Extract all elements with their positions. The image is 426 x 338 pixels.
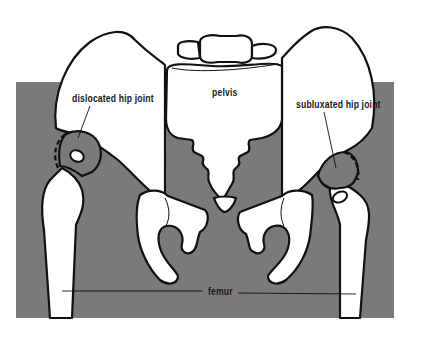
label-subluxated-hip-joint: subluxated hip joint (296, 98, 381, 110)
label-dislocated-hip-joint: dislocated hip joint (72, 92, 154, 104)
vertebra-left-process (178, 41, 200, 59)
label-femur: femur (208, 285, 233, 297)
label-pelvis: pelvis (212, 86, 237, 98)
vertebra-right-process (252, 44, 276, 59)
vertebra (200, 35, 252, 63)
